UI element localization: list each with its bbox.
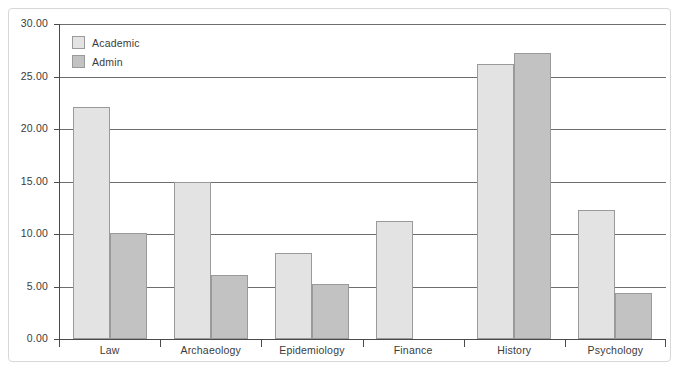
x-tick-mark	[59, 339, 60, 347]
x-tick-mark	[261, 339, 262, 347]
bar-group	[261, 24, 362, 339]
x-tick-mark	[665, 339, 666, 347]
bar-admin	[514, 53, 551, 339]
bar-academic	[578, 210, 615, 339]
bar-admin	[312, 284, 349, 339]
y-tick-label: 30.00	[21, 17, 48, 29]
bar-chart-figure: 30.0025.0020.0015.0010.005.000.00 LawArc…	[8, 8, 671, 362]
bar-academic	[477, 64, 514, 339]
bar-academic	[376, 221, 413, 339]
y-tick-mark	[54, 77, 60, 78]
bar-admin	[615, 293, 652, 339]
y-tick-label: 0.00	[27, 332, 48, 344]
y-tick-label: 20.00	[21, 122, 48, 134]
x-tick-mark	[464, 339, 465, 347]
bar-group	[160, 24, 261, 339]
y-tick-mark	[54, 234, 60, 235]
legend-item-admin: Admin	[72, 52, 140, 71]
admin-swatch	[72, 55, 85, 68]
bar-academic	[174, 182, 211, 340]
legend-label: Admin	[92, 56, 123, 68]
y-tick-mark	[54, 287, 60, 288]
y-tick-label: 10.00	[21, 227, 48, 239]
legend-item-academic: Academic	[72, 33, 140, 52]
y-tick-mark	[54, 182, 60, 183]
plot-area	[59, 24, 666, 339]
bar-group	[363, 24, 464, 339]
bar-admin	[211, 275, 248, 339]
bar-academic	[275, 253, 312, 339]
y-tick-label: 5.00	[27, 280, 48, 292]
x-tick-mark	[160, 339, 161, 347]
y-tick-mark	[54, 129, 60, 130]
bar-group	[565, 24, 666, 339]
x-axis-ticks	[59, 339, 666, 349]
bar-academic	[73, 107, 110, 339]
legend-label: Academic	[92, 37, 140, 49]
x-tick-mark	[565, 339, 566, 347]
y-tick-label: 15.00	[21, 175, 48, 187]
x-tick-mark	[363, 339, 364, 347]
y-tick-label: 25.00	[21, 70, 48, 82]
y-tick-mark	[54, 24, 60, 25]
bar-admin	[110, 233, 147, 339]
chart-legend: AcademicAdmin	[72, 33, 140, 71]
bar-group	[464, 24, 565, 339]
academic-swatch	[72, 36, 85, 49]
bar-group	[59, 24, 160, 339]
